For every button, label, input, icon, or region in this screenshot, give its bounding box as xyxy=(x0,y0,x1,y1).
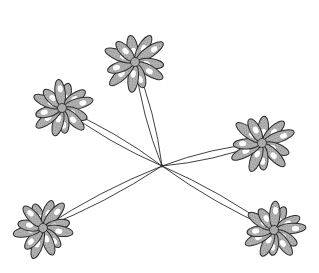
rosette-upper-left xyxy=(25,72,99,143)
rosette-core xyxy=(257,138,267,148)
stalk-line xyxy=(43,166,162,228)
stalk-line xyxy=(43,166,162,228)
rosette-clusters xyxy=(4,30,313,269)
illustration xyxy=(0,0,319,273)
rosette-right xyxy=(228,113,297,176)
central-junction-point xyxy=(161,165,164,168)
rosette-top xyxy=(99,30,172,98)
rosette-lower-left xyxy=(4,191,81,266)
colony-drawing xyxy=(0,0,319,273)
rosette-lower-right xyxy=(234,191,314,269)
